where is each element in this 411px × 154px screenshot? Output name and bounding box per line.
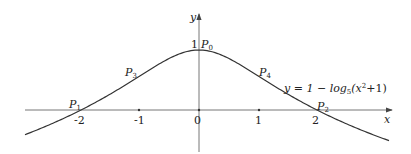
- x-tick-label: 2: [312, 114, 319, 127]
- y-axis-label: y: [189, 11, 197, 24]
- x-tick-label: 1: [255, 114, 262, 127]
- point-label-p0: P0: [200, 38, 213, 52]
- point-label-p4: P4: [258, 66, 271, 80]
- y-tick-label: 1: [191, 38, 198, 51]
- tick-dot-neg1: [138, 109, 140, 111]
- x-tick-label: -2: [74, 114, 85, 127]
- point-label-p1: P1: [68, 98, 81, 112]
- point-label-p3: P3: [124, 66, 137, 80]
- x-tick-label: -1: [134, 114, 145, 127]
- point-label-p2: P2: [316, 100, 329, 114]
- equation-label: y = 1 − log5(x2+1): [283, 82, 387, 96]
- x-axis-label: x: [384, 113, 391, 126]
- function-graph: -2 -1 0 1 2 1 x y P0 P1 P2 P3 P4 y = 1 −…: [0, 0, 411, 154]
- tick-dot-1: [258, 109, 260, 111]
- origin-label: 0: [194, 114, 201, 127]
- tick-dot-0: [198, 109, 200, 111]
- curve: [25, 50, 389, 141]
